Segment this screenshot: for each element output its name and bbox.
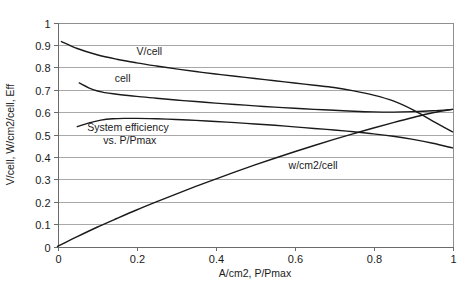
y-tick-label: 0.3 bbox=[35, 174, 50, 186]
y-axis-title: V/cell, W/cm2/cell, Eff bbox=[4, 84, 16, 185]
x-axis-title: A/cm2, P/Pmax bbox=[219, 267, 292, 279]
y-tick-label: 1 bbox=[44, 18, 50, 30]
y-tick-label: 0.1 bbox=[35, 219, 50, 231]
x-tick-label: 0.6 bbox=[288, 253, 303, 265]
line-chart: 00.10.20.30.40.50.60.70.80.91 00.20.40.6… bbox=[0, 0, 468, 291]
y-tick-label: 0.7 bbox=[35, 85, 50, 97]
y-tick-label: 0.6 bbox=[35, 107, 50, 119]
y-axis-ticks: 00.10.20.30.40.50.60.70.80.91 bbox=[35, 18, 57, 254]
y-tick-label: 0.5 bbox=[35, 130, 50, 142]
x-tick-label: 1 bbox=[450, 253, 456, 265]
x-axis-ticks: 00.20.40.60.81 bbox=[55, 247, 456, 265]
y-tick-label: 0.4 bbox=[35, 152, 50, 164]
series-label-2-line2: vs. P/Pmax bbox=[103, 134, 157, 146]
series-label-1: cell bbox=[115, 72, 131, 84]
y-tick-label: 0 bbox=[44, 242, 50, 254]
series-label-3: w/cm2/cell bbox=[288, 159, 338, 171]
x-tick-label: 0.8 bbox=[367, 253, 382, 265]
x-tick-label: 0.2 bbox=[130, 253, 145, 265]
x-tick-label: 0.4 bbox=[209, 253, 224, 265]
chart-container: 00.10.20.30.40.50.60.70.80.91 00.20.40.6… bbox=[0, 0, 468, 291]
x-tick-label: 0 bbox=[55, 253, 61, 265]
y-tick-label: 0.9 bbox=[35, 40, 50, 52]
series-label-0: V/cell bbox=[137, 45, 163, 57]
y-tick-label: 0.2 bbox=[35, 197, 50, 209]
y-tick-label: 0.8 bbox=[35, 62, 50, 74]
series-label-2: System efficiency bbox=[87, 121, 169, 133]
series-curve-1 bbox=[79, 83, 452, 112]
